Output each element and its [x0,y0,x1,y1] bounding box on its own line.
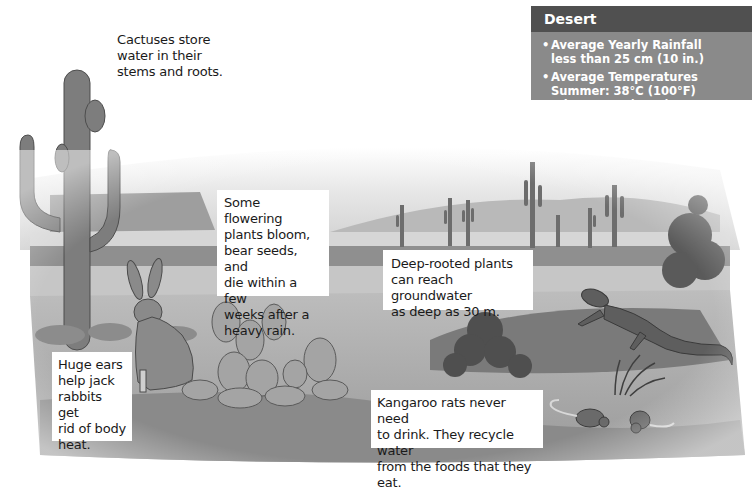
info-item-value: Summer: 38°C (100°F) [551,84,746,98]
caption-line: water in their [117,48,241,64]
caption-jack-rabbit: Huge ears help jack rabbits get rid of b… [52,352,132,441]
info-item-temperatures: Average Temperatures Summer: 38°C (100°F… [551,70,746,112]
caption-cactus: Cactuses store water in their stems and … [109,26,249,86]
info-item-value: less than 25 cm (10 in.) [551,52,746,66]
info-box-title: Desert [531,6,752,32]
caption-line: help jack [58,373,126,389]
caption-line: Cactuses store [117,32,241,48]
caption-line: bear seeds, and [224,243,322,275]
caption-line: Deep-rooted plants [391,256,525,272]
caption-line: Some flowering [224,195,322,227]
info-item-heading: Average Temperatures [551,70,746,84]
caption-kangaroo-rats: Kangaroo rats never need to drink. They … [371,390,543,448]
desert-info-box: Desert Average Yearly Rainfall less than… [531,6,752,100]
info-item-heading: Average Yearly Rainfall [551,38,746,52]
caption-line: heat. [58,437,126,453]
caption-line: weeks after a [224,307,322,323]
caption-flowering-plants: Some flowering plants bloom, bear seeds,… [217,190,329,296]
info-box-list: Average Yearly Rainfall less than 25 cm … [531,32,752,112]
caption-line: from the foods that they eat. [377,459,537,491]
caption-line: stems and roots. [117,64,241,80]
info-item-rainfall: Average Yearly Rainfall less than 25 cm … [551,38,746,66]
caption-line: Huge ears [58,357,126,373]
caption-deep-rooted-plants: Deep-rooted plants can reach groundwater… [383,250,533,310]
info-item-value: Winter: 7°C (45°F) [551,98,746,112]
caption-line: can reach groundwater [391,272,525,304]
caption-line: as deep as 30 m. [391,304,525,320]
caption-line: rid of body [58,421,126,437]
caption-line: heavy rain. [224,323,322,339]
caption-line: Kangaroo rats never need [377,395,537,427]
caption-line: plants bloom, [224,227,322,243]
caption-line: to drink. They recycle water [377,427,537,459]
caption-line: rabbits get [58,389,126,421]
caption-line: die within a few [224,275,322,307]
